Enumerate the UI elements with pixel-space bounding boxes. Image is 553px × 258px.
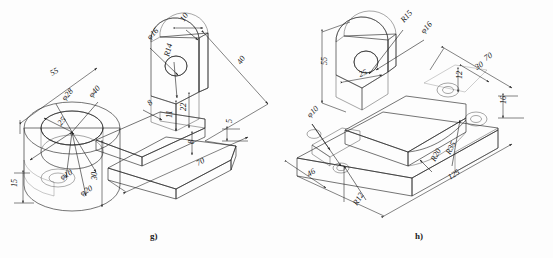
figure-caption-g: g) [150, 231, 158, 241]
dim-g-17: 8 [187, 140, 196, 144]
dim-h-6: 12 [455, 71, 464, 79]
drawing-sheet: 55 φ28 φ40 25 φ10 φ20 15 30 φ16 R14 10 4… [0, 0, 553, 258]
dim-h-2: 55 [320, 57, 329, 65]
dim-g-6: 15 [10, 179, 19, 187]
dim-g-15: 5 [225, 119, 234, 123]
dim-h-7: 16 [499, 95, 508, 104]
drawing-canvas: 55 φ28 φ40 25 φ10 φ20 15 30 φ16 R14 10 4… [0, 0, 553, 258]
sheet-background [0, 0, 553, 258]
dim-g-12: 22 [179, 103, 188, 111]
figure-caption-h: h) [415, 231, 423, 241]
dim-g-13: 11 [165, 110, 174, 118]
dim-g-7: 30 [90, 172, 99, 181]
